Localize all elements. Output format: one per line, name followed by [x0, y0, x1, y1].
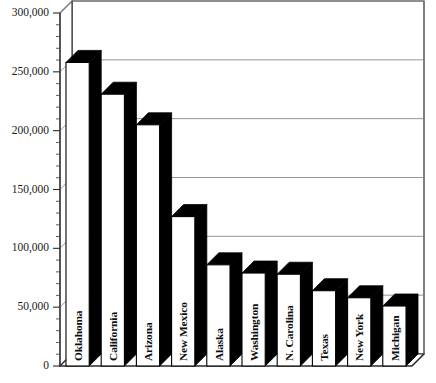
bar-category-label: Washington: [248, 303, 260, 361]
bar-side-face: [160, 113, 172, 366]
y-axis-tick-label: 50,000: [17, 300, 49, 313]
bar-group: Oklahoma: [66, 50, 101, 366]
bar-group: N. Carolina: [277, 262, 312, 366]
y-axis-tick-label: 0: [43, 359, 49, 371]
bar-side-face: [371, 286, 383, 366]
bar-category-label: Texas: [318, 333, 330, 361]
y-axis-tick-label: 150,000: [12, 183, 50, 196]
bar-group: New Mexico: [172, 205, 207, 366]
chart-canvas: 300,000250,000200,000150,000100,00050,00…: [0, 0, 436, 383]
bar-group: New York: [348, 286, 383, 366]
bar-category-label: Michigan: [389, 315, 401, 361]
bar-group: Arizona: [136, 113, 171, 366]
bar-side-face: [406, 294, 418, 366]
bar-category-label: New York: [353, 313, 365, 361]
bar-group: Texas: [312, 279, 347, 366]
bar-side-face: [195, 205, 207, 366]
bar-side-face: [124, 82, 136, 366]
bar-category-label: Oklahoma: [72, 310, 84, 361]
bar-side-face: [89, 50, 101, 366]
y-axis-tick-label: 100,000: [12, 241, 50, 254]
y-axis-tick-label: 250,000: [12, 65, 50, 78]
bar-group: Alaska: [207, 253, 242, 366]
bar-side-face: [336, 279, 348, 366]
bar-group: California: [101, 82, 136, 366]
bar-category-label: New Mexico: [177, 302, 189, 361]
bar-category-label: Arizona: [142, 322, 154, 361]
bar-side-face: [300, 262, 312, 366]
bar-side-face: [230, 253, 242, 366]
y-axis-tick-label: 200,000: [12, 124, 50, 137]
bar-group: Michigan: [383, 294, 418, 366]
bar-group: Washington: [242, 261, 277, 366]
bar-side-face: [265, 261, 277, 366]
bar-category-label: Alaska: [213, 328, 225, 361]
bar-chart: 300,000250,000200,000150,000100,00050,00…: [0, 0, 436, 383]
bar-category-label: N. Carolina: [283, 305, 295, 361]
y-axis-tick-label: 300,000: [12, 6, 50, 19]
bar-category-label: California: [107, 312, 119, 361]
